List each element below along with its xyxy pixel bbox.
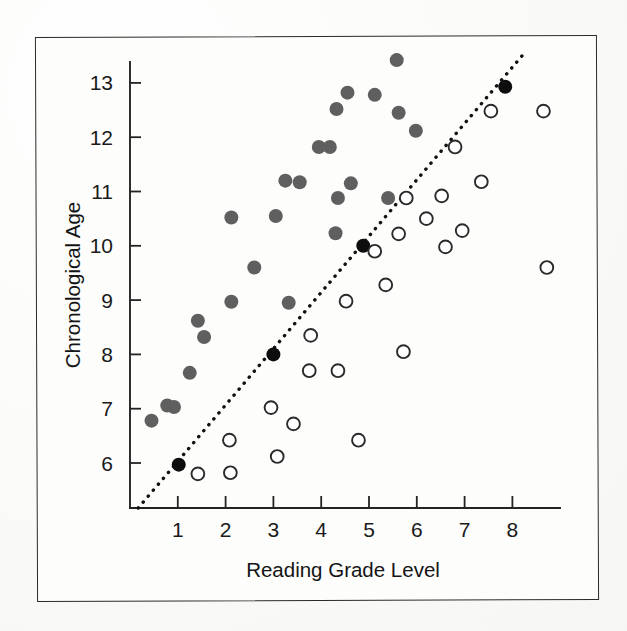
reference-line (138, 50, 527, 508)
scatter-chart: 67891011121312345678 Reading Grade Level… (0, 0, 627, 631)
data-point (330, 102, 344, 116)
data-point (172, 458, 186, 472)
axis-labels-group: Reading Grade LevelChronological Age (61, 202, 440, 581)
reference-line-group (138, 50, 527, 508)
page-background: 67891011121312345678 Reading Grade Level… (0, 0, 627, 631)
data-point (420, 212, 433, 225)
scatter-series (191, 105, 553, 481)
x-axis-tick-label: 4 (315, 518, 327, 541)
y-axis-tick-label: 10 (90, 234, 113, 257)
data-point (456, 224, 469, 237)
data-point (304, 329, 317, 342)
data-point (400, 192, 413, 205)
x-axis-tick-label: 6 (411, 518, 423, 541)
data-point (332, 364, 345, 377)
data-point (340, 295, 353, 308)
x-axis-tick-label: 7 (459, 518, 471, 541)
data-point (223, 434, 236, 447)
data-point (224, 295, 238, 309)
scatter-series (145, 53, 423, 428)
axes-group: 67891011121312345678 (90, 62, 560, 541)
x-axis-tick-label: 2 (220, 518, 232, 541)
x-axis-tick-label: 3 (268, 518, 280, 541)
data-point (247, 261, 261, 275)
data-point (329, 226, 343, 240)
data-point (340, 86, 354, 100)
data-point (197, 330, 211, 344)
x-axis-tick-label: 1 (172, 518, 184, 541)
data-point (540, 261, 553, 274)
data-point (484, 105, 497, 118)
y-axis-tick-label: 8 (101, 343, 113, 366)
data-point (287, 418, 300, 431)
data-point (269, 209, 283, 223)
data-point (224, 466, 237, 479)
y-axis-tick-label: 11 (91, 180, 113, 203)
data-point (368, 245, 381, 258)
data-point (293, 175, 307, 189)
data-point (323, 140, 337, 154)
data-point (368, 88, 382, 102)
data-point (344, 176, 358, 190)
data-point (498, 80, 512, 94)
x-axis-tick-label: 8 (507, 518, 519, 541)
data-point (439, 240, 452, 253)
data-point (271, 450, 284, 463)
data-point (224, 211, 238, 225)
data-point (145, 414, 159, 428)
data-point (282, 296, 296, 310)
data-point (191, 467, 204, 480)
y-axis-tick-label: 7 (101, 397, 113, 420)
data-point (397, 345, 410, 358)
data-point (392, 227, 405, 240)
data-point (392, 106, 406, 120)
data-point (331, 191, 345, 205)
data-point (537, 105, 550, 118)
data-point (265, 401, 278, 414)
y-axis-title: Chronological Age (61, 202, 84, 368)
x-axis-tick-label: 5 (363, 518, 375, 541)
data-point (266, 347, 280, 361)
y-axis-tick-label: 9 (101, 289, 113, 312)
data-point (390, 53, 404, 67)
data-point (167, 400, 181, 414)
data-point (191, 314, 205, 328)
y-axis-tick-label: 13 (90, 71, 113, 94)
x-axis-title: Reading Grade Level (246, 558, 440, 581)
data-point (449, 141, 462, 154)
data-point (381, 191, 395, 205)
data-point (278, 174, 292, 188)
data-point (303, 364, 316, 377)
data-points-group (145, 53, 554, 480)
data-point (435, 189, 448, 202)
data-point (352, 434, 365, 447)
data-point (183, 366, 197, 380)
data-point (409, 124, 423, 138)
scatter-series (172, 80, 512, 472)
data-point (475, 175, 488, 188)
data-point (379, 279, 392, 292)
y-axis-tick-label: 12 (90, 126, 113, 149)
y-axis-tick-label: 6 (101, 452, 113, 475)
